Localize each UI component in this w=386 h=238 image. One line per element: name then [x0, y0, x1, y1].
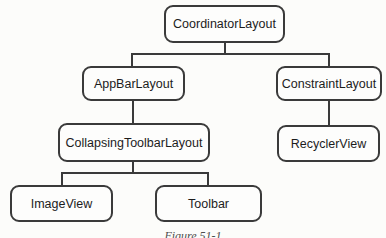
- connector-appbar-to-collapsing: [132, 101, 134, 124]
- node-recycler-view-label: RecyclerView: [291, 137, 367, 151]
- node-constraint-layout: ConstraintLayout: [276, 66, 382, 101]
- connector-level4-horizontal: [61, 172, 209, 174]
- node-image-view-label: ImageView: [31, 197, 93, 211]
- connector-to-constraintlayout: [328, 53, 330, 67]
- node-collapsing-toolbar-layout: CollapsingToolbarLayout: [58, 123, 210, 162]
- connector-to-imageview: [61, 172, 63, 186]
- connector-level2-horizontal: [131, 53, 330, 55]
- node-recycler-view: RecyclerView: [277, 125, 380, 162]
- connector-to-toolbar: [207, 172, 209, 186]
- node-app-bar-layout-label: AppBarLayout: [94, 77, 173, 91]
- connector-to-appbarlayout: [131, 53, 133, 67]
- figure-caption: Figure 51-1: [0, 229, 386, 238]
- connector-constraint-to-recycler: [328, 101, 330, 126]
- node-app-bar-layout: AppBarLayout: [82, 66, 185, 101]
- node-image-view: ImageView: [10, 185, 113, 222]
- node-toolbar: Toolbar: [155, 185, 262, 222]
- node-toolbar-label: Toolbar: [188, 197, 229, 211]
- node-coordinator-layout-label: CoordinatorLayout: [173, 17, 276, 31]
- node-coordinator-layout: CoordinatorLayout: [164, 5, 285, 43]
- hierarchy-diagram: CoordinatorLayout AppBarLayout Constrain…: [0, 0, 386, 238]
- node-collapsing-toolbar-layout-label: CollapsingToolbarLayout: [66, 136, 203, 150]
- node-constraint-layout-label: ConstraintLayout: [282, 77, 377, 91]
